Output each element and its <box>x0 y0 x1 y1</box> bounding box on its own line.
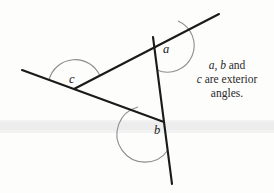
exterior-angles-figure: a c b a, b and c are exterior angles. <box>0 0 274 193</box>
caption-line-1: a, b and <box>180 58 274 72</box>
caption-line-3: angles. <box>180 86 274 100</box>
caption-line-2-tail: are exterior <box>202 73 258 85</box>
caption-block: a, b and c are exterior angles. <box>180 58 274 101</box>
caption-line-2: c are exterior <box>180 72 274 86</box>
angle-label-b: b <box>154 124 160 137</box>
angle-label-c: c <box>69 73 75 86</box>
caption-line-1-tail: and <box>226 59 245 71</box>
scan-band-inner <box>0 122 274 130</box>
angle-label-a: a <box>163 43 169 56</box>
